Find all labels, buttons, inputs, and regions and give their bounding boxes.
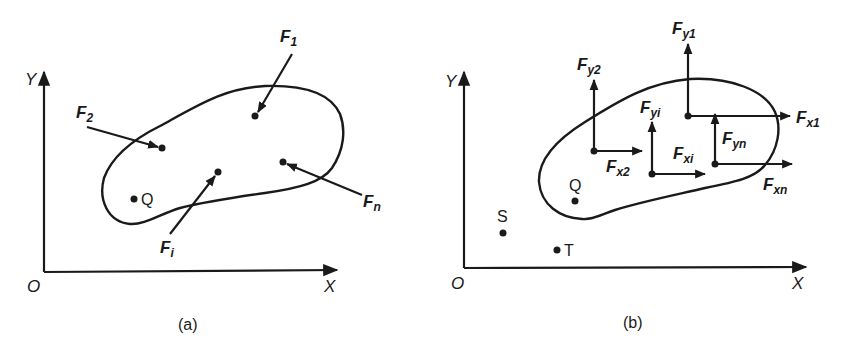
application-point <box>685 113 692 120</box>
force-label: Fi <box>160 238 174 260</box>
panel-a: Y O X Q F1 F2 Fi <box>25 27 381 333</box>
force-label: Fn <box>363 192 381 214</box>
application-point <box>252 113 259 120</box>
fy1-label: Fy1 <box>672 19 696 41</box>
application-point <box>649 171 656 178</box>
rigid-body-outline <box>102 86 343 224</box>
point-dot <box>500 230 507 237</box>
point-q-b: Q <box>569 177 581 205</box>
application-point <box>280 159 287 166</box>
force-arrow <box>258 54 292 112</box>
application-point <box>712 161 719 168</box>
point-q-label: Q <box>141 191 153 208</box>
point-t-label: T <box>564 242 574 259</box>
force-f1: F1 <box>252 27 298 120</box>
force-label: F1 <box>280 27 297 49</box>
application-point <box>159 145 166 152</box>
components-2: Fy2 Fx2 <box>577 55 642 179</box>
force-label: F2 <box>76 103 93 125</box>
force-arrow <box>170 176 215 234</box>
y-axis-label: Y <box>25 70 38 89</box>
fx2-label: Fx2 <box>606 157 630 179</box>
force-f2: F2 <box>76 103 166 152</box>
panel-b: Y O X Fy1 Fx1 Fy2 Fx2 Fyi Fxi <box>445 19 820 331</box>
origin-label: O <box>27 277 40 296</box>
point-q-a: Q <box>131 191 154 208</box>
x-axis <box>44 270 337 272</box>
fxn-label: Fxn <box>763 175 787 197</box>
force-arrow <box>287 164 362 195</box>
fx1-label: Fx1 <box>796 108 820 130</box>
point-t: T <box>554 242 575 259</box>
point-dot <box>572 198 579 205</box>
point-s: S <box>497 208 508 237</box>
force-fi: Fi <box>160 169 222 261</box>
x-axis-label: X <box>791 274 804 293</box>
fyn-label: Fyn <box>722 129 746 151</box>
components-i: Fyi Fxi <box>640 98 705 178</box>
fy2-label: Fy2 <box>577 55 601 77</box>
force-arrow <box>87 127 158 147</box>
fxi-label: Fxi <box>673 144 694 166</box>
point-dot <box>554 247 561 254</box>
point-dot <box>131 196 138 203</box>
fyi-label: Fyi <box>640 98 661 120</box>
application-point <box>215 169 222 176</box>
application-point <box>591 148 598 155</box>
x-axis-label: X <box>323 277 336 296</box>
axes-a: Y O X <box>25 70 337 296</box>
origin-label: O <box>451 274 464 293</box>
x-axis <box>464 267 806 268</box>
axes-b: Y O X <box>445 72 806 293</box>
point-q-label: Q <box>569 177 581 194</box>
point-s-label: S <box>497 208 508 225</box>
components-1: Fy1 Fx1 <box>672 19 820 130</box>
panel-a-caption: (a) <box>178 316 198 333</box>
force-fn: Fn <box>280 159 381 215</box>
panel-b-caption: (b) <box>623 314 643 331</box>
y-axis-label: Y <box>445 72 458 91</box>
force-diagram: Y O X Q F1 F2 Fi <box>0 0 844 356</box>
